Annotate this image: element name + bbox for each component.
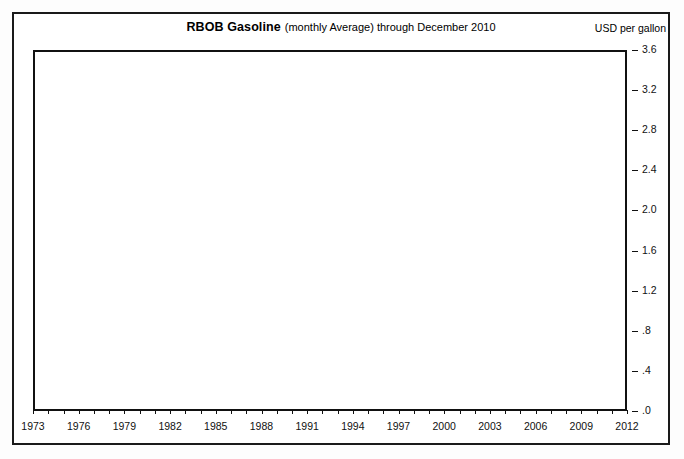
y-tick-mark [632, 251, 638, 252]
x-tick-label: 2009 [561, 420, 601, 432]
x-tick-mark [94, 410, 95, 414]
x-tick-label: 1994 [333, 420, 373, 432]
x-tick-mark [353, 410, 354, 414]
x-tick-mark [612, 410, 613, 414]
x-tick-mark [566, 410, 567, 414]
y-tick-label: 1.2 [642, 284, 657, 296]
y-tick-mark [632, 50, 638, 51]
x-tick-mark [109, 410, 110, 414]
x-tick-label: 1997 [379, 420, 419, 432]
y-tick-mark [632, 371, 638, 372]
y-tick-label: 3.2 [642, 83, 657, 95]
x-tick-mark [460, 410, 461, 414]
x-tick-mark [475, 410, 476, 414]
x-axis: 1973197619791982198519881991199419972000… [13, 414, 673, 436]
page-title: RBOB Gasoline [186, 20, 280, 34]
y-tick-mark [632, 130, 638, 131]
y-tick-label: 2.4 [642, 163, 657, 175]
x-tick-mark [383, 410, 384, 414]
chart-title: RBOB Gasoline (monthly Average) through … [14, 14, 668, 40]
x-tick-mark [262, 410, 263, 414]
x-tick-mark [170, 410, 171, 414]
x-tick-mark [490, 410, 491, 414]
x-tick-label: 1982 [150, 420, 190, 432]
x-tick-mark [551, 410, 552, 414]
x-tick-mark [581, 410, 582, 414]
y-tick-label: 2.8 [642, 123, 657, 135]
x-tick-mark [277, 410, 278, 414]
x-tick-mark [536, 410, 537, 414]
x-tick-mark [124, 410, 125, 414]
x-tick-mark [79, 410, 80, 414]
x-tick-label: 2003 [470, 420, 510, 432]
x-tick-mark [246, 410, 247, 414]
x-tick-label: 2000 [424, 420, 464, 432]
x-tick-mark [33, 410, 34, 414]
y-axis-units-label: USD per gallon [595, 22, 666, 34]
x-tick-mark [414, 410, 415, 414]
y-tick-mark [632, 331, 638, 332]
x-tick-mark [399, 410, 400, 414]
y-tick-label: 3.6 [642, 43, 657, 55]
x-tick-mark [505, 410, 506, 414]
x-tick-mark [307, 410, 308, 414]
x-tick-mark [64, 410, 65, 414]
x-tick-mark [231, 410, 232, 414]
plot-area [33, 50, 627, 411]
y-tick-mark [632, 90, 638, 91]
x-tick-mark [429, 410, 430, 414]
x-tick-label: 1988 [241, 420, 281, 432]
x-tick-mark [140, 410, 141, 414]
y-tick-label: .8 [642, 324, 651, 336]
chart-figure: RBOB Gasoline (monthly Average) through … [0, 0, 684, 459]
y-tick-label: 2.0 [642, 203, 657, 215]
x-tick-mark [155, 410, 156, 414]
plot-wrapper [33, 50, 627, 411]
x-tick-mark [216, 410, 217, 414]
x-tick-mark [597, 410, 598, 414]
x-tick-mark [520, 410, 521, 414]
x-tick-mark [368, 410, 369, 414]
y-tick-mark [632, 170, 638, 171]
y-tick-label: .4 [642, 364, 651, 376]
x-tick-label: 1976 [59, 420, 99, 432]
x-tick-label: 1979 [104, 420, 144, 432]
x-tick-mark [201, 410, 202, 414]
y-tick-mark [632, 411, 638, 412]
y-axis: 3.63.22.82.42.01.61.2.8.4.0 [632, 50, 678, 411]
x-tick-label: 2012 [607, 420, 647, 432]
y-tick-mark [632, 210, 638, 211]
x-tick-label: 1991 [287, 420, 327, 432]
x-tick-mark [627, 410, 628, 414]
chart-subtitle: (monthly Average) through December 2010 [285, 21, 496, 33]
x-tick-label: 1973 [13, 420, 53, 432]
x-tick-mark [444, 410, 445, 414]
x-tick-mark [185, 410, 186, 414]
y-tick-mark [632, 291, 638, 292]
x-tick-mark [292, 410, 293, 414]
y-tick-label: 1.6 [642, 244, 657, 256]
x-tick-mark [322, 410, 323, 414]
x-tick-mark [48, 410, 49, 414]
x-tick-label: 1985 [196, 420, 236, 432]
x-tick-mark [338, 410, 339, 414]
x-tick-label: 2006 [516, 420, 556, 432]
